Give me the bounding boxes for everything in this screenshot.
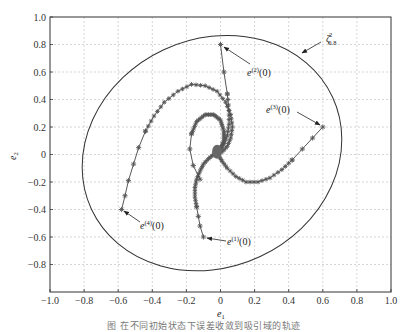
svg-text:−0.6: −0.6 [109,295,127,306]
svg-text:0: 0 [41,149,46,160]
annotation-e1: e(1)(0) [207,235,251,248]
svg-text:−0.8: −0.8 [28,259,46,270]
svg-text:0.6: 0.6 [34,67,47,78]
svg-text:0.4: 0.4 [34,94,47,105]
annotation-e3: e(3)(0) [266,103,320,125]
svg-text:1.0: 1.0 [34,12,47,23]
svg-text:−0.4: −0.4 [143,295,161,306]
svg-text:0.8: 0.8 [351,295,364,306]
svg-text:−1.0: −1.0 [41,295,59,306]
y-axis-label: e2 [7,152,19,160]
axis-ticks: −1.0−0.8−0.6−0.4−0.200.20.40.60.81.01.00… [28,12,397,307]
annotation-e2: e(2)(0) [224,47,271,79]
figure-caption: 图 在不同初始状态下误差收敛到吸引域的轨迹 [0,319,408,332]
svg-text:−0.2: −0.2 [28,177,46,188]
origin-cluster [212,145,222,159]
svg-text:1.0: 1.0 [385,295,398,306]
annotation-e4: e(4)(0) [124,211,164,232]
svg-text:e(4)(0): e(4)(0) [140,219,164,232]
svg-text:−0.6: −0.6 [28,232,46,243]
svg-text:e(3)(0): e(3)(0) [266,103,290,116]
svg-text:−0.4: −0.4 [28,204,46,215]
svg-text:0: 0 [218,295,223,306]
svg-text:0.2: 0.2 [34,122,47,133]
svg-text:0.4: 0.4 [282,295,295,306]
svg-text:e(2)(0): e(2)(0) [247,66,271,79]
trajectory-e10 [193,151,220,240]
svg-text:e(1)(0): e(1)(0) [227,235,251,248]
trajectories [119,42,325,240]
svg-text:−0.8: −0.8 [75,295,93,306]
svg-text:−0.2: −0.2 [177,295,195,306]
svg-text:0.8: 0.8 [34,39,47,50]
svg-text:0.6: 0.6 [317,295,330,306]
svg-text:0.2: 0.2 [248,295,261,306]
svg-text:ζ20.8: ζ20.8 [326,31,336,46]
annotation-zeta: ζ20.8 [302,31,336,53]
